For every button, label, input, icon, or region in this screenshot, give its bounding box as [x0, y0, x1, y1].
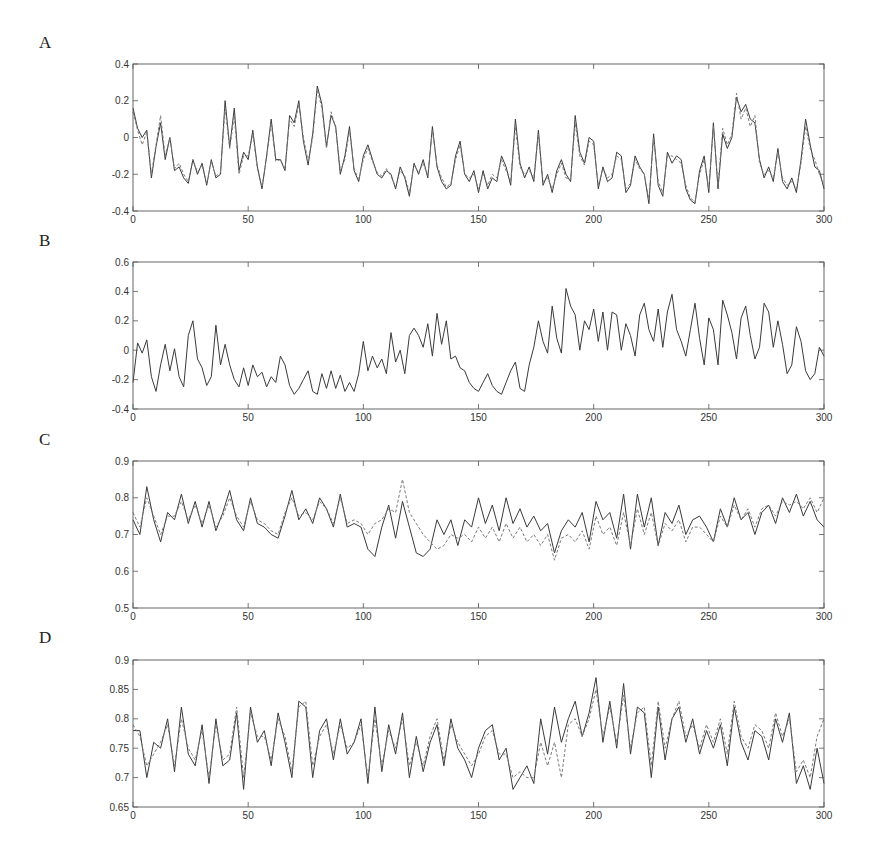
y-tick-label: 0.75 — [110, 743, 130, 754]
panel-d: D0501001502002503000.650.70.750.80.850.9 — [39, 628, 833, 821]
y-tick-label: -0.4 — [112, 404, 130, 415]
series-solid-line — [133, 289, 824, 395]
x-tick-label: 200 — [585, 611, 602, 622]
series-solid-line — [133, 86, 824, 204]
figure: A050100150200250300-0.4-0.200.20.4 B0501… — [0, 0, 869, 859]
axes-frame — [133, 461, 824, 608]
x-tick-label: 0 — [130, 214, 136, 225]
y-tick-label: 0.9 — [115, 456, 129, 467]
x-tick-label: 250 — [700, 412, 717, 423]
x-tick-label: 200 — [585, 214, 602, 225]
x-tick-label: 250 — [700, 214, 717, 225]
series-solid-line — [133, 487, 824, 557]
y-tick-label: 0.4 — [115, 59, 129, 70]
y-tick-label: 0.7 — [115, 529, 129, 540]
x-tick-label: 0 — [130, 412, 136, 423]
y-tick-label: 0.65 — [110, 802, 130, 813]
axes-frame — [133, 660, 824, 807]
x-tick-label: 100 — [355, 611, 372, 622]
y-tick-label: 0.8 — [115, 713, 129, 724]
x-tick-label: 50 — [243, 412, 255, 423]
x-tick-label: 150 — [470, 214, 487, 225]
x-tick-label: 250 — [700, 611, 717, 622]
x-tick-label: 300 — [816, 611, 833, 622]
panel-letter: C — [39, 430, 50, 449]
panel-letter: B — [39, 231, 50, 250]
y-tick-label: 0.4 — [115, 286, 129, 297]
panel-letter: D — [39, 628, 51, 647]
x-tick-label: 100 — [355, 412, 372, 423]
y-tick-label: 0 — [123, 345, 129, 356]
series-solid-line — [133, 678, 824, 790]
y-tick-label: 0.2 — [115, 95, 129, 106]
panel-a: A050100150200250300-0.4-0.200.20.4 — [39, 33, 833, 225]
x-tick-label: 50 — [243, 611, 255, 622]
y-tick-label: 0 — [123, 132, 129, 143]
x-tick-label: 50 — [243, 810, 255, 821]
y-tick-label: 0.9 — [115, 655, 129, 666]
y-tick-label: 0.85 — [110, 684, 130, 695]
y-tick-label: 0.5 — [115, 603, 129, 614]
x-tick-label: 0 — [130, 810, 136, 821]
x-tick-label: 200 — [585, 810, 602, 821]
x-tick-label: 100 — [355, 810, 372, 821]
x-tick-label: 300 — [816, 412, 833, 423]
x-tick-label: 50 — [243, 214, 255, 225]
y-tick-label: -0.2 — [112, 374, 130, 385]
y-tick-label: 0.6 — [115, 566, 129, 577]
y-tick-label: 0.2 — [115, 315, 129, 326]
y-tick-label: 0.8 — [115, 492, 129, 503]
x-tick-label: 250 — [700, 810, 717, 821]
panel-letter: A — [39, 33, 52, 52]
y-tick-label: -0.2 — [112, 169, 130, 180]
y-tick-label: 0.7 — [115, 772, 129, 783]
x-tick-label: 100 — [355, 214, 372, 225]
x-tick-label: 300 — [816, 214, 833, 225]
y-tick-label: -0.4 — [112, 206, 130, 217]
panel-b: B050100150200250300-0.4-0.200.20.40.6 — [39, 231, 833, 423]
panel-c: C0501001502002503000.50.60.70.80.9 — [39, 430, 833, 622]
x-tick-label: 200 — [585, 412, 602, 423]
series-dashed-line — [133, 689, 824, 777]
series-dashed-line — [133, 90, 824, 202]
x-tick-label: 300 — [816, 810, 833, 821]
x-tick-label: 150 — [470, 611, 487, 622]
y-tick-label: 0.6 — [115, 257, 129, 268]
x-tick-label: 150 — [470, 810, 487, 821]
x-tick-label: 150 — [470, 412, 487, 423]
x-tick-label: 0 — [130, 611, 136, 622]
